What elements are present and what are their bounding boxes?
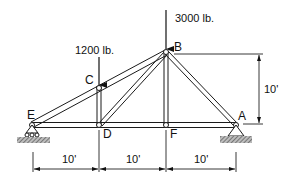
vertical-dimension	[174, 54, 263, 124]
joint-label-c: C	[85, 74, 94, 86]
ground-hatch-e	[17, 137, 50, 143]
joint-label-e: E	[27, 109, 35, 121]
joints	[30, 50, 239, 128]
joint-label-f: F	[170, 128, 177, 140]
joint-label-b: B	[174, 41, 182, 53]
joint-label-d: D	[103, 128, 112, 140]
dim-label-f-a: 10'	[194, 154, 208, 165]
member-b-f	[164, 52, 168, 125]
ground-hatch-a	[220, 136, 252, 143]
member-bottom-chord	[32, 123, 236, 128]
joint-label-a: A	[238, 110, 246, 122]
truss-diagram	[0, 0, 290, 186]
member-b-a	[164, 51, 238, 126]
member-b-d	[99, 52, 167, 126]
joint-d	[97, 123, 102, 128]
joint-b	[164, 50, 169, 55]
dim-label-vertical: 10'	[264, 84, 278, 95]
truss-members	[31, 50, 238, 128]
dim-label-d-f: 10'	[126, 154, 140, 165]
load-label-b: 3000 lb.	[175, 13, 214, 24]
horizontal-dimensions	[33, 130, 236, 172]
joint-c	[97, 86, 102, 91]
load-label-c: 1200 lb.	[75, 45, 114, 56]
joint-f	[164, 123, 169, 128]
dim-label-e-d: 10'	[62, 154, 76, 165]
